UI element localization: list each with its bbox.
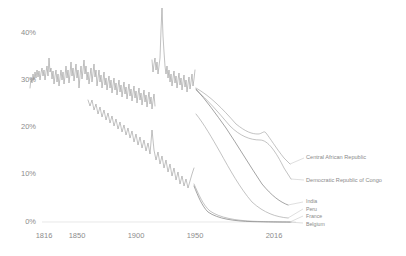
y-tick-label: 0%: [25, 217, 36, 226]
series-line-central-african-republic: [196, 88, 290, 164]
leader-line: [291, 222, 303, 223]
y-tick-label: 10%: [21, 169, 36, 178]
y-tick-label: 20%: [21, 122, 36, 131]
leader-line: [291, 179, 304, 180]
x-tick-label: 1850: [69, 231, 86, 240]
legend-item-france[interactable]: France: [306, 213, 322, 219]
legend-item-india[interactable]: India: [306, 198, 317, 204]
leader-line: [288, 209, 303, 218]
historical-series-spike: [152, 8, 195, 92]
leader-line: [290, 158, 304, 164]
leader-line: [290, 216, 303, 222]
series-line-france: [194, 186, 290, 222]
historical-series-lower: [88, 100, 194, 188]
leader-line: [288, 202, 303, 205]
legend-item-central-african-republic[interactable]: Central African Republic: [306, 154, 366, 160]
x-tick-label: 1900: [128, 231, 145, 240]
x-axis: 1816 1850 1900 1950 2016: [36, 231, 283, 240]
legend-item-democratic-republic-of-congo[interactable]: Democratic Republic of Congo: [306, 177, 382, 183]
x-tick-label: 1950: [187, 231, 204, 240]
series-line-india: [196, 89, 288, 205]
y-axis: 40% 30% 20% 10% 0%: [21, 28, 36, 226]
x-tick-label: 2016: [266, 231, 283, 240]
legend-item-peru[interactable]: Peru: [306, 206, 317, 212]
legend: Central African Republic Democratic Repu…: [306, 154, 382, 226]
series-line-peru: [196, 114, 288, 218]
x-tick-label: 1816: [36, 231, 53, 240]
chart-container: 40% 30% 20% 10% 0% 1816 1850 1900 1950 2…: [0, 0, 406, 256]
line-chart: 40% 30% 20% 10% 0% 1816 1850 1900 1950 2…: [0, 0, 406, 256]
y-tick-label: 40%: [21, 28, 36, 37]
legend-leaders: [288, 158, 304, 223]
legend-item-belgium[interactable]: Belgium: [306, 221, 325, 227]
series-line-democratic-republic-of-congo: [196, 90, 291, 179]
